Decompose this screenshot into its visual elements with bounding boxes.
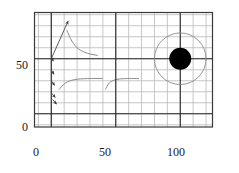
streamline-curve bbox=[67, 30, 98, 55]
x-tick-label-100: 100 bbox=[162, 146, 190, 158]
x-tick-label-50: 50 bbox=[91, 146, 119, 158]
vector-arrow bbox=[51, 21, 68, 58]
y-tick-label-50: 50 bbox=[2, 59, 28, 71]
streamline-curve bbox=[59, 78, 103, 89]
figure-container: 50 0 0 50 100 bbox=[0, 0, 239, 173]
y-tick-label-0: 0 bbox=[2, 121, 28, 133]
streamline-curve bbox=[105, 78, 139, 89]
body-marker-disk bbox=[169, 48, 191, 70]
vector-arrow bbox=[53, 99, 57, 103]
vector-arrow bbox=[51, 93, 55, 97]
grid-lines bbox=[35, 13, 213, 128]
x-tick-label-0: 0 bbox=[22, 146, 50, 158]
